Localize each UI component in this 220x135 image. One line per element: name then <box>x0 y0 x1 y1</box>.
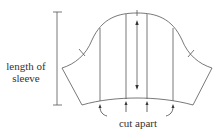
cut-arrow-4 <box>166 107 173 116</box>
grainline-arrowhead-top <box>135 20 138 25</box>
length-label-line1: length of <box>2 60 50 72</box>
notch-right <box>188 50 194 57</box>
cut-apart-label: cut apart <box>110 117 166 129</box>
grainline-arrowhead-bottom <box>135 85 138 90</box>
notch-left <box>79 49 85 56</box>
cut-arrow-1 <box>100 107 107 116</box>
length-of-sleeve-label: length of sleeve <box>2 60 50 84</box>
length-label-line2: sleeve <box>2 72 50 84</box>
